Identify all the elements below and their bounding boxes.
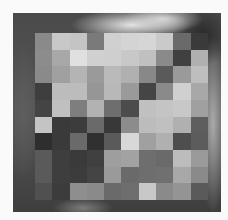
mosaic-cell — [104, 83, 121, 100]
mosaic-cell — [121, 83, 138, 100]
mosaic-cell — [104, 100, 121, 117]
mosaic-cell — [173, 150, 190, 167]
pixelated-mosaic-region — [35, 33, 208, 200]
mosaic-cell — [35, 167, 52, 184]
mosaic-cell — [87, 83, 104, 100]
mosaic-cell — [70, 167, 87, 184]
mosaic-cell — [52, 50, 69, 67]
mosaic-cell — [35, 183, 52, 200]
mosaic-cell — [104, 150, 121, 167]
mosaic-cell — [156, 33, 173, 50]
mosaic-cell — [87, 133, 104, 150]
mosaic-cell — [70, 33, 87, 50]
mosaic-cell — [52, 133, 69, 150]
mosaic-cell — [191, 150, 208, 167]
mosaic-cell — [139, 50, 156, 67]
mosaic-cell — [173, 33, 190, 50]
mosaic-cell — [121, 133, 138, 150]
mosaic-cell — [52, 150, 69, 167]
mosaic-cell — [121, 117, 138, 134]
mosaic-cell — [173, 100, 190, 117]
mosaic-cell — [104, 183, 121, 200]
mosaic-cell — [35, 33, 52, 50]
mosaic-cell — [191, 117, 208, 134]
mosaic-cell — [104, 133, 121, 150]
mosaic-cell — [156, 117, 173, 134]
mosaic-cell — [156, 167, 173, 184]
mosaic-cell — [70, 133, 87, 150]
mosaic-cell — [191, 100, 208, 117]
mosaic-cell — [35, 100, 52, 117]
mosaic-cell — [156, 50, 173, 67]
mosaic-cell — [35, 50, 52, 67]
mosaic-cell — [156, 83, 173, 100]
mosaic-cell — [35, 117, 52, 134]
mosaic-cell — [35, 83, 52, 100]
mosaic-cell — [70, 117, 87, 134]
mosaic-cell — [156, 150, 173, 167]
mosaic-cell — [139, 83, 156, 100]
mosaic-cell — [173, 83, 190, 100]
mosaic-cell — [173, 66, 190, 83]
mosaic-cell — [139, 100, 156, 117]
mosaic-cell — [191, 183, 208, 200]
mosaic-cell — [156, 133, 173, 150]
photo — [13, 13, 221, 212]
mosaic-cell — [87, 66, 104, 83]
mosaic-cell — [104, 50, 121, 67]
mosaic-cell — [139, 183, 156, 200]
mosaic-cell — [121, 50, 138, 67]
mosaic-cell — [156, 183, 173, 200]
mosaic-cell — [52, 183, 69, 200]
mosaic-cell — [139, 33, 156, 50]
mosaic-cell — [70, 83, 87, 100]
mosaic-cell — [87, 33, 104, 50]
mosaic-cell — [70, 150, 87, 167]
mosaic-cell — [139, 117, 156, 134]
mosaic-cell — [70, 66, 87, 83]
mosaic-cell — [156, 100, 173, 117]
mosaic-cell — [52, 33, 69, 50]
mosaic-cell — [87, 50, 104, 67]
mosaic-cell — [87, 167, 104, 184]
mosaic-cell — [173, 133, 190, 150]
mosaic-cell — [87, 117, 104, 134]
mosaic-cell — [35, 150, 52, 167]
mosaic-cell — [173, 183, 190, 200]
mosaic-cell — [121, 66, 138, 83]
mosaic-cell — [139, 167, 156, 184]
mosaic-cell — [121, 183, 138, 200]
mosaic-cell — [70, 183, 87, 200]
mosaic-cell — [191, 50, 208, 67]
mosaic-cell — [139, 133, 156, 150]
mosaic-cell — [173, 50, 190, 67]
mosaic-cell — [121, 100, 138, 117]
mosaic-cell — [35, 66, 52, 83]
mosaic-cell — [104, 66, 121, 83]
mosaic-cell — [87, 150, 104, 167]
mosaic-cell — [104, 117, 121, 134]
mosaic-cell — [139, 150, 156, 167]
mosaic-cell — [191, 167, 208, 184]
mosaic-cell — [191, 33, 208, 50]
mosaic-cell — [70, 50, 87, 67]
mosaic-cell — [121, 150, 138, 167]
mosaic-cell — [121, 167, 138, 184]
mosaic-cell — [104, 33, 121, 50]
mosaic-cell — [70, 100, 87, 117]
mosaic-cell — [87, 183, 104, 200]
mosaic-cell — [191, 66, 208, 83]
mosaic-cell — [52, 66, 69, 83]
mosaic-cell — [156, 66, 173, 83]
mosaic-cell — [121, 33, 138, 50]
mosaic-cell — [52, 117, 69, 134]
mosaic-cell — [173, 117, 190, 134]
mosaic-cell — [52, 83, 69, 100]
mosaic-cell — [191, 83, 208, 100]
mosaic-cell — [173, 167, 190, 184]
mosaic-cell — [52, 167, 69, 184]
mosaic-cell — [104, 167, 121, 184]
mosaic-cell — [139, 66, 156, 83]
mosaic-cell — [52, 100, 69, 117]
mosaic-cell — [191, 133, 208, 150]
